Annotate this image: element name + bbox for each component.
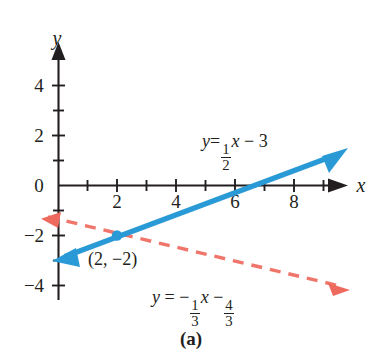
point-coordinate-label: (2, −2) xyxy=(88,249,137,270)
x-tick-label-8: 8 xyxy=(289,191,299,212)
eq-red-frac2-denominator: 3 xyxy=(224,313,233,329)
eq-red-equals: = xyxy=(165,287,175,307)
figure-panel-a: 2 4 6 8 4 2 0 −2 −4 x y xyxy=(0,0,382,360)
figure-caption: (a) xyxy=(0,328,382,350)
eq-red-fraction-one: 13 xyxy=(190,298,199,329)
eq-blue-constant: 3 xyxy=(259,131,268,151)
eq-blue-frac-numerator: 1 xyxy=(221,142,230,157)
eq-blue-minus: − xyxy=(244,131,254,151)
eq-red-fraction-two: 43 xyxy=(224,298,233,329)
eq-blue-fraction: 12 xyxy=(221,142,230,173)
equation-label-red: y = −13x −43 xyxy=(152,288,235,329)
red-right-arrowhead xyxy=(328,283,350,296)
blue-right-arrowhead xyxy=(322,148,348,173)
intersection-point-marker xyxy=(112,230,122,240)
y-tick-labels: 4 2 0 −2 −4 xyxy=(24,75,45,296)
x-tick-label-4: 4 xyxy=(171,191,181,212)
x-axis-arrowhead xyxy=(328,179,348,193)
blue-left-arrowhead xyxy=(52,248,80,267)
eq-red-lead-minus: − xyxy=(179,287,189,307)
eq-red-lhs: y xyxy=(152,287,160,307)
equation-label-blue: y=12x − 3 xyxy=(202,132,268,173)
eq-blue-lhs: y xyxy=(202,131,210,151)
axis-x xyxy=(58,179,348,193)
y-tick-label-0: 0 xyxy=(34,175,44,196)
y-axis-label: y xyxy=(51,27,62,50)
y-tick-label-4: 4 xyxy=(34,75,44,96)
y-tick-label-neg4: −4 xyxy=(24,275,45,296)
y-tick-label-neg2: −2 xyxy=(24,225,44,246)
y-tick-label-2: 2 xyxy=(34,125,44,146)
eq-blue-frac-denominator: 2 xyxy=(221,157,230,173)
eq-red-frac1-numerator: 1 xyxy=(190,298,199,313)
x-tick-label-2: 2 xyxy=(112,191,122,212)
eq-blue-equals: = xyxy=(210,131,220,151)
eq-blue-variable: x xyxy=(232,131,240,151)
eq-red-variable: x xyxy=(201,287,209,307)
eq-red-minus: − xyxy=(213,287,223,307)
eq-red-frac2-numerator: 4 xyxy=(224,298,233,313)
x-axis-label: x xyxy=(356,174,366,196)
eq-red-frac1-denominator: 3 xyxy=(190,313,199,329)
